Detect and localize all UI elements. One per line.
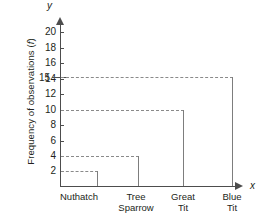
drop-line-nuthatch: [97, 171, 98, 186]
y-tick-6: [60, 141, 64, 142]
drop-line-great-tit: [183, 110, 184, 186]
y-axis-title-suffix: ): [25, 38, 36, 41]
y-tick-18: [60, 48, 64, 49]
x-category-blue-tit-line1: Blue: [202, 191, 262, 202]
drop-line-tree-sparrow: [138, 156, 139, 186]
y-tick-20: [60, 32, 64, 33]
y-tick-16: [60, 63, 64, 64]
x-axis-label: x: [250, 180, 255, 191]
y-tick-label-16: 16: [30, 58, 56, 68]
value-line-great-tit: [61, 110, 184, 111]
y-tick-12: [60, 94, 64, 95]
x-category-blue-tit-line2: Tit: [202, 202, 262, 213]
value-line-tree-sparrow: [61, 156, 139, 157]
x-axis-line: [60, 186, 237, 187]
chart-canvas: Frequency of observations (f) y x 20 18 …: [0, 0, 267, 219]
value-line-blue-tit: [61, 77, 233, 78]
y-tick-label-12: 12: [30, 89, 56, 99]
y-tick-label-15: 15: [26, 72, 50, 83]
y-tick-8: [60, 125, 64, 126]
value-line-nuthatch: [61, 171, 98, 172]
drop-line-blue-tit: [232, 77, 233, 186]
y-tick-label-20: 20: [30, 27, 56, 37]
y-tick-label-10: 10: [30, 105, 56, 115]
x-category-nuthatch: Nuthatch: [49, 191, 109, 202]
x-axis-arrow-icon: [235, 182, 243, 190]
x-category-nuthatch-line1: Nuthatch: [49, 191, 109, 202]
y-tick-14: [60, 79, 64, 80]
y-axis-title: Frequency of observations (f): [25, 17, 36, 187]
y-tick-label-6: 6: [30, 136, 56, 146]
y-axis-label: y: [47, 0, 52, 11]
x-category-blue-tit: Blue Tit: [202, 191, 262, 213]
y-tick-label-4: 4: [30, 151, 56, 161]
y-tick-label-8: 8: [30, 120, 56, 130]
y-axis-arrow-icon: [56, 17, 64, 25]
y-tick-label-2: 2: [30, 166, 56, 176]
y-tick-label-18: 18: [30, 43, 56, 53]
